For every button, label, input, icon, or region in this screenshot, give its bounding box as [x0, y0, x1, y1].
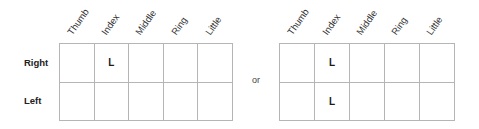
cell-right-thumb	[280, 44, 315, 83]
cell-left-little	[420, 82, 455, 121]
cell-left-middle	[129, 82, 164, 121]
grid-row-right: L	[280, 44, 455, 83]
cell-right-index: L	[94, 44, 129, 83]
column-label-middle: Middle	[354, 8, 379, 37]
cell-left-little	[198, 82, 233, 121]
column-label-index: Index	[99, 12, 121, 37]
column-label-middle: Middle	[133, 8, 158, 37]
grid-row-right: L	[60, 44, 233, 83]
column-label-thumb: Thumb	[285, 6, 311, 37]
cell-right-middle	[350, 44, 385, 83]
cell-right-middle	[129, 44, 164, 83]
cell-left-index	[94, 82, 129, 121]
grid-row-left: L	[280, 82, 455, 121]
cell-right-thumb	[60, 44, 95, 83]
finger-grid-left: L	[59, 43, 233, 121]
finger-grid-right: L L	[279, 43, 455, 121]
cell-left-ring	[163, 82, 198, 121]
cell-left-ring	[385, 82, 420, 121]
column-label-ring: Ring	[389, 15, 409, 37]
column-label-ring: Ring	[169, 15, 189, 37]
row-label-left: Left	[24, 95, 41, 106]
cell-left-thumb	[280, 82, 315, 121]
column-label-thumb: Thumb	[65, 6, 91, 37]
cell-right-index: L	[315, 44, 350, 83]
grid-row-left	[60, 82, 233, 121]
cell-left-middle	[350, 82, 385, 121]
cell-left-thumb	[60, 82, 95, 121]
cell-left-index: L	[315, 82, 350, 121]
column-label-index: Index	[320, 12, 342, 37]
or-separator: or	[252, 75, 260, 85]
row-label-right: Right	[24, 57, 48, 68]
column-label-little: Little	[203, 14, 224, 37]
cell-right-little	[420, 44, 455, 83]
column-label-little: Little	[424, 14, 445, 37]
cell-right-ring	[163, 44, 198, 83]
cell-right-ring	[385, 44, 420, 83]
cell-right-little	[198, 44, 233, 83]
